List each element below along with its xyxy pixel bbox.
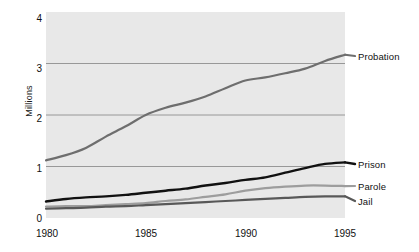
series-label-probation: Probation xyxy=(358,51,400,62)
label-connector-prison xyxy=(345,162,355,164)
label-connector-probation xyxy=(345,55,355,56)
x-tick-1985: 1985 xyxy=(126,228,166,239)
y-axis-title: Millions xyxy=(24,66,34,136)
y-tick-1: 1 xyxy=(20,163,42,174)
x-tick-1990: 1990 xyxy=(226,228,266,239)
x-tick-1995: 1995 xyxy=(325,228,365,239)
y-tick-3: 3 xyxy=(20,63,42,74)
series-label-jail: Jail xyxy=(358,196,373,207)
y-tick-0: 0 xyxy=(20,213,42,224)
y-tick-4: 4 xyxy=(20,13,42,24)
series-label-prison: Prison xyxy=(358,159,386,170)
line-chart-canvas xyxy=(0,0,419,252)
series-label-parole: Parole xyxy=(358,181,386,192)
chart-container: Millions 4 3 2 1 0 1980 1985 1990 1995 P… xyxy=(0,0,419,252)
y-tick-2: 2 xyxy=(20,113,42,124)
x-tick-1980: 1980 xyxy=(27,228,67,239)
label-connector-jail xyxy=(345,196,355,201)
